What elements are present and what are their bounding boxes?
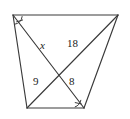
segment-diagonal-top-right-to-bottom-left bbox=[27, 15, 118, 108]
label-8: 8 bbox=[69, 76, 75, 87]
geometry-figure: x 18 9 8 bbox=[0, 0, 130, 119]
label-x: x bbox=[40, 40, 45, 51]
segment-diagonal-top-left-to-bottom-right bbox=[13, 15, 84, 108]
segment-right-side bbox=[84, 15, 118, 108]
figure-canvas bbox=[0, 0, 130, 119]
label-9: 9 bbox=[33, 76, 39, 87]
segment-left-side bbox=[13, 15, 27, 108]
label-18: 18 bbox=[67, 38, 78, 49]
